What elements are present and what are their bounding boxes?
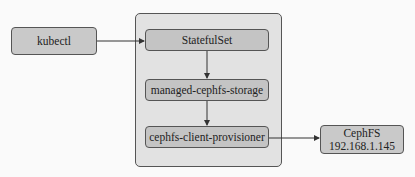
- cephfs-node: CephFS 192.168.1.145: [320, 125, 404, 154]
- cephfs-client-provisioner-node: cephfs-client-provisioner: [145, 126, 269, 148]
- managed-cephfs-storage-label: managed-cephfs-storage: [151, 84, 263, 97]
- cephfs-client-provisioner-label: cephfs-client-provisioner: [149, 131, 265, 144]
- kubectl-label: kubectl: [37, 35, 71, 48]
- cephfs-label: CephFS: [343, 127, 380, 140]
- kubectl-node: kubectl: [11, 27, 97, 55]
- statefulset-node: StatefulSet: [145, 29, 269, 51]
- cephfs-address: 192.168.1.145: [329, 140, 395, 153]
- managed-cephfs-storage-node: managed-cephfs-storage: [145, 79, 269, 101]
- statefulset-label: StatefulSet: [182, 34, 232, 47]
